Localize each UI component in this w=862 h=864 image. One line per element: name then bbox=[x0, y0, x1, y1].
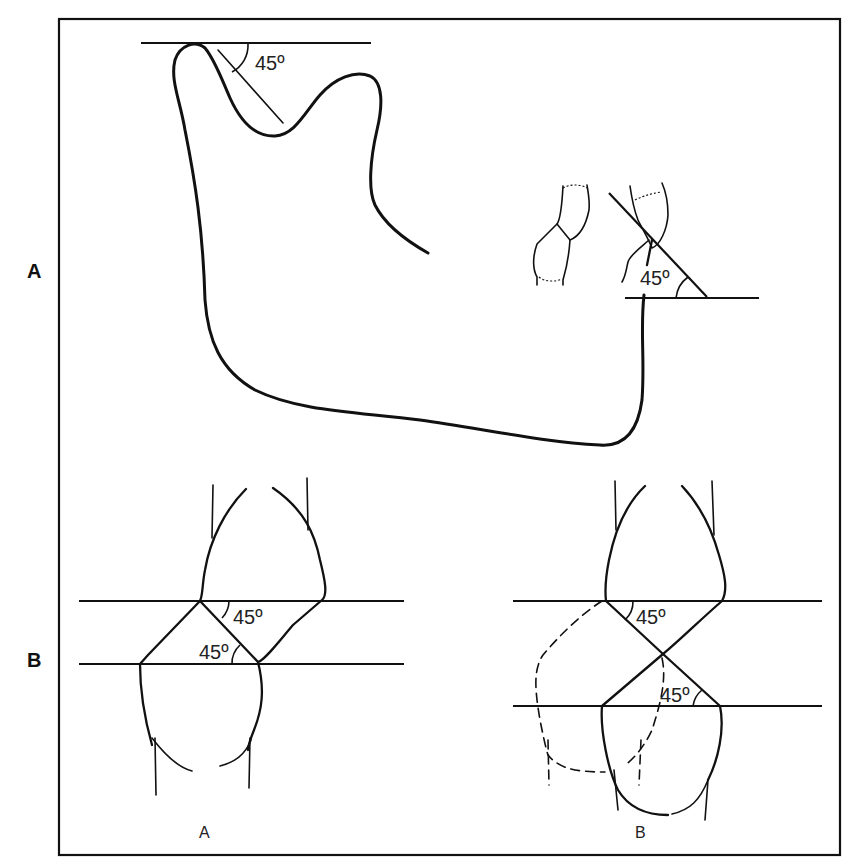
upper-root-left-right bbox=[615, 481, 616, 530]
lower-incisor-dashed bbox=[536, 601, 605, 772]
panel-b-left: 45º 45º A bbox=[79, 478, 404, 841]
lower-root-left bbox=[155, 738, 156, 795]
lower-incisor bbox=[140, 601, 200, 745]
dashed-root-left bbox=[548, 740, 549, 785]
condyle-angle-label: 45º bbox=[255, 52, 285, 74]
incisal-angle-arc bbox=[676, 277, 688, 298]
upper-incisor-right bbox=[605, 486, 725, 654]
incisal-angle-label: 45º bbox=[640, 267, 670, 289]
lower-angle-arc-right bbox=[693, 690, 702, 706]
lower-crown-right-b bbox=[672, 780, 708, 814]
panel-a-incisors-left bbox=[534, 185, 590, 285]
upper-incisor-outline bbox=[557, 185, 589, 240]
upper-angle-label-right: 45º bbox=[636, 606, 666, 628]
lower-incisor-dashed-right bbox=[624, 658, 664, 766]
lower-root-right bbox=[249, 738, 250, 788]
panel-label-a: A bbox=[27, 260, 41, 282]
dental-occlusion-diagram: A B 45º 45º bbox=[0, 0, 862, 864]
mandible-outline bbox=[174, 44, 644, 445]
lower-angle-label: 45º bbox=[199, 641, 229, 663]
upper-incisor-cej-2 bbox=[635, 192, 661, 200]
upper-angle-label: 45º bbox=[233, 606, 263, 628]
upper-root-right bbox=[307, 478, 308, 530]
caption-a: A bbox=[199, 824, 210, 841]
upper-incisor-cej bbox=[563, 185, 587, 188]
lower-angle-arc bbox=[232, 645, 240, 664]
caption-b: B bbox=[635, 824, 646, 841]
panel-label-b: B bbox=[27, 649, 41, 671]
lower-incisor-right bbox=[248, 662, 262, 750]
panel-b-right: 45º 45º B bbox=[513, 481, 822, 841]
panel-a-incisors-right: 45º bbox=[609, 183, 759, 298]
lower-crown-left bbox=[152, 738, 192, 771]
upper-incisor-outline-2 bbox=[630, 183, 668, 248]
figure-frame bbox=[59, 19, 840, 855]
upper-root-right-right bbox=[712, 481, 714, 535]
lower-crown-right bbox=[220, 740, 251, 766]
upper-root-left bbox=[212, 485, 213, 538]
upper-angle-arc bbox=[222, 601, 229, 618]
upper-incisor bbox=[200, 488, 325, 662]
upper-angle-arc-right bbox=[625, 601, 633, 620]
dashed-root-right bbox=[639, 740, 641, 785]
panel-a-mandible: 45º bbox=[141, 43, 644, 445]
lower-angle-label-right: 45º bbox=[660, 684, 690, 706]
lower-incisor-cej bbox=[539, 277, 562, 281]
